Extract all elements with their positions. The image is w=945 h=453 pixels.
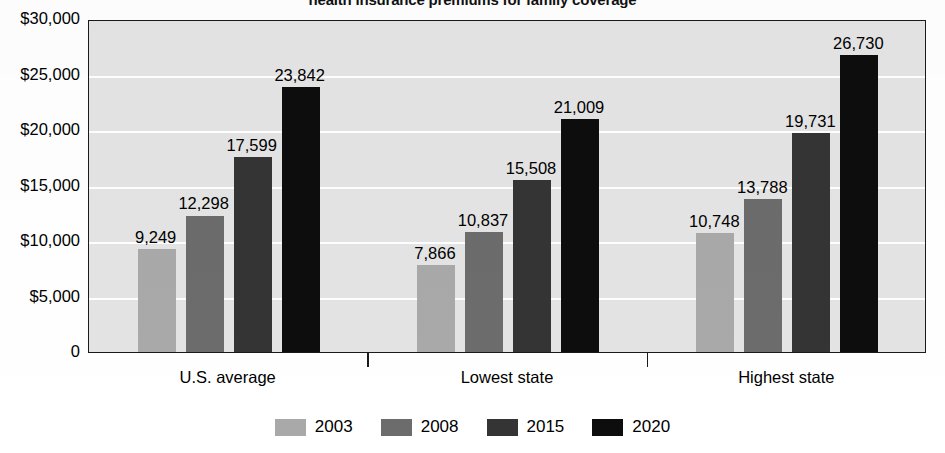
bar-value-label: 10,748 bbox=[669, 212, 759, 231]
category-axis-label: Lowest state bbox=[407, 368, 607, 387]
bar bbox=[840, 55, 878, 352]
category-axis-tick bbox=[647, 353, 649, 367]
y-axis-tick-label: $5,000 bbox=[0, 287, 80, 306]
bar-value-label: 17,599 bbox=[207, 136, 297, 155]
legend-item-label: 2003 bbox=[315, 417, 353, 437]
legend-swatch-icon bbox=[487, 419, 518, 436]
chart-title: health insurance premiums for family cov… bbox=[0, 0, 945, 8]
y-axis-tick-label: 0 bbox=[0, 342, 80, 361]
category-axis-tick bbox=[367, 353, 369, 367]
bar bbox=[417, 265, 455, 352]
bar bbox=[138, 249, 176, 352]
chart-legend: 2003200820152020 bbox=[0, 417, 945, 437]
legend-swatch-icon bbox=[381, 419, 412, 436]
legend-item: 2015 bbox=[487, 417, 565, 437]
bar bbox=[282, 87, 320, 352]
gridline bbox=[89, 76, 925, 78]
y-axis-tick-label: $10,000 bbox=[0, 231, 80, 250]
bar-value-label: 7,866 bbox=[390, 244, 480, 263]
bar-value-label: 23,842 bbox=[255, 66, 345, 85]
legend-swatch-icon bbox=[592, 419, 623, 436]
legend-swatch-icon bbox=[275, 419, 306, 436]
legend-item: 2020 bbox=[592, 417, 670, 437]
bar bbox=[513, 180, 551, 352]
y-axis: 0$5,000$10,000$15,000$20,000$25,000$30,0… bbox=[0, 0, 82, 453]
bar-value-label: 13,788 bbox=[717, 178, 807, 197]
bar-value-label: 19,731 bbox=[765, 112, 855, 131]
bar-chart-figure: health insurance premiums for family cov… bbox=[0, 0, 945, 453]
bar bbox=[561, 119, 599, 352]
category-axis-label: Highest state bbox=[686, 368, 886, 387]
legend-item-label: 2008 bbox=[421, 417, 459, 437]
bar-value-label: 10,837 bbox=[438, 211, 528, 230]
bar-value-label: 26,730 bbox=[813, 34, 903, 53]
y-axis-tick-label: $20,000 bbox=[0, 120, 80, 139]
y-axis-tick-label: $30,000 bbox=[0, 9, 80, 28]
category-axis-label: U.S. average bbox=[128, 368, 328, 387]
bar bbox=[792, 133, 830, 352]
y-axis-tick-label: $15,000 bbox=[0, 176, 80, 195]
bar bbox=[696, 233, 734, 352]
y-axis-tick-label: $25,000 bbox=[0, 65, 80, 84]
legend-item-label: 2020 bbox=[632, 417, 670, 437]
legend-item-label: 2015 bbox=[527, 417, 565, 437]
bar-value-label: 21,009 bbox=[534, 98, 624, 117]
bar bbox=[234, 157, 272, 352]
bar-value-label: 15,508 bbox=[486, 159, 576, 178]
legend-item: 2008 bbox=[381, 417, 459, 437]
bar-value-label: 9,249 bbox=[111, 228, 201, 247]
bar-value-label: 12,298 bbox=[159, 194, 249, 213]
legend-item: 2003 bbox=[275, 417, 353, 437]
